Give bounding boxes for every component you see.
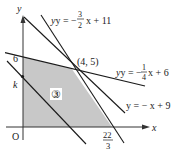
svg-text:2: 2: [78, 21, 82, 30]
y-axis-arrow-icon: [21, 15, 26, 23]
svg-text:x + 11: x + 11: [86, 15, 111, 26]
svg-text:4: 4: [142, 73, 146, 82]
region-label: ③: [51, 89, 61, 100]
equation-line1: yy = − 3 2 x + 11: [50, 10, 111, 30]
x-axis-arrow-icon: [142, 125, 150, 130]
y-k-label: k: [13, 79, 18, 90]
x-axis-label: x: [151, 122, 157, 133]
intersection-point-label: (4, 5): [77, 56, 99, 68]
svg-text:yy = −: yy = −: [115, 67, 142, 78]
equation-line2: yy = − 1 4 x + 6: [115, 63, 169, 82]
svg-text:yy = −: yy = −: [50, 15, 77, 26]
x-intercept-numerator: 22: [103, 130, 112, 140]
y-axis-label: y: [16, 3, 22, 14]
svg-text:x + 6: x + 6: [148, 67, 169, 78]
x-intercept-denominator: 3: [106, 141, 110, 151]
equation-line3: y = − x + 9: [126, 100, 170, 111]
origin-label: O: [12, 131, 19, 142]
y-intercept-6-label: 6: [13, 53, 18, 64]
svg-text:1: 1: [142, 63, 146, 72]
svg-text:3: 3: [78, 10, 82, 19]
lp-diagram: y x O 6 k 22 3 (4, 5) ③ yy = − 3 2 x + 1…: [0, 0, 178, 153]
k-point: [21, 75, 24, 78]
